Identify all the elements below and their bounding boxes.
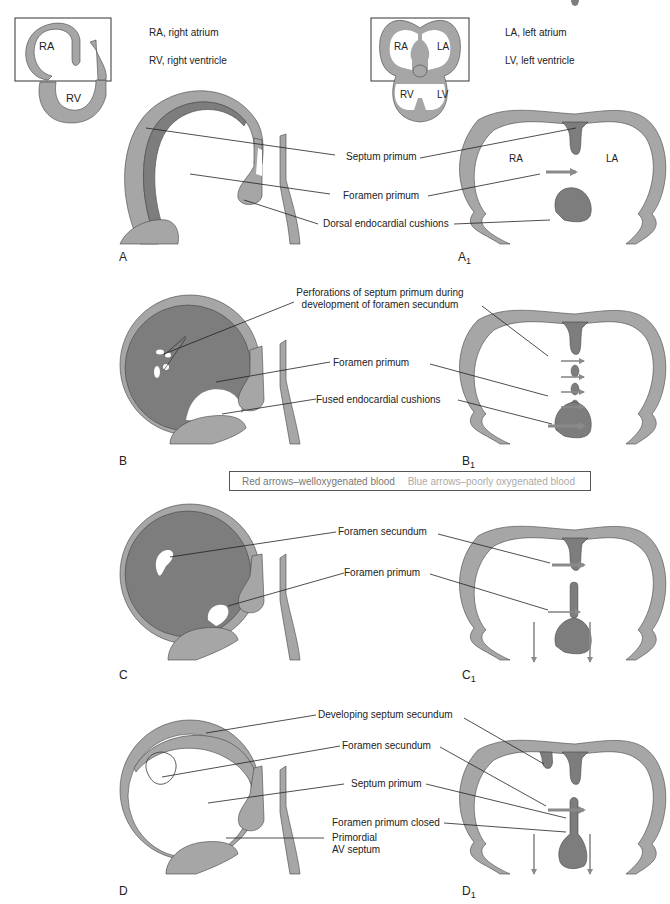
inset-sagittal [15,18,111,123]
label-foramen-primum-c: Foramen primum [344,567,420,579]
key-la: LA, left atrium [505,27,567,39]
panel-label-b1: B1 [462,454,475,470]
panel-label-b: B [119,454,127,468]
panel-label-d1: D1 [462,884,476,900]
panel-c1-illustration [430,526,666,662]
panel-label-c: C [119,668,128,682]
inset-left-ra: RA [39,40,54,52]
panel-label-a1: A1 [458,250,471,266]
inset-right-lv: LV [437,89,449,101]
panel-label-d: D [119,884,128,898]
panel-c-illustration [120,504,344,660]
label-foramen-secundum-c: Foramen secundum [338,526,427,538]
panel-d-illustration [120,715,344,874]
label-fused-cushions: Fused endocardial cushions [316,394,441,406]
label-foramen-primum-b: Foramen primum [333,357,409,369]
inset-right-rv: RV [400,89,414,101]
heart-septation-diagram [0,0,670,904]
label-septum-primum-a: Septum primum [346,151,417,163]
panel-a-illustration [120,91,335,244]
label-la-a1: LA [606,153,618,165]
panel-d1-illustration [426,718,666,874]
label-foramen-primum-closed: Foramen primum closed [332,817,440,829]
legend-blue-arrows: Blue arrows–poorly oxygenated blood [408,476,575,487]
label-foramen-secundum-d: Foramen secundum [342,740,431,752]
key-ra: RA, right atrium [149,27,218,39]
label-foramen-primum-a: Foramen primum [343,190,419,202]
label-ra-a1: RA [509,153,523,165]
inset-left-rv: RV [66,92,81,104]
key-lv: LV, left ventricle [505,55,574,67]
label-perforations: Perforations of septum primum duringdeve… [280,287,480,311]
inset-right-ra: RA [394,41,408,53]
panel-a1-illustration [420,110,666,244]
label-septum-primum-d: Septum primum [351,778,422,790]
inset-right-la: LA [437,41,449,53]
legend-red-arrows: Red arrows–welloxygenated blood [242,476,395,487]
inset-frontal [371,18,469,122]
key-rv: RV, right ventricle [149,55,227,67]
panel-label-a: A [119,250,127,264]
color-legend: Red arrows–welloxygenated blood Blue arr… [229,471,591,491]
label-primordial-av-septum: PrimordialAV septum [332,832,380,856]
panel-b-illustration [120,295,330,444]
panel-label-c1: C1 [462,668,476,684]
label-developing-septum-secundum: Developing septum secundum [318,709,453,721]
label-dorsal-cushions: Dorsal endocardial cushions [323,218,449,230]
